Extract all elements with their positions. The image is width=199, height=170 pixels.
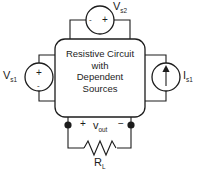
- output-voltage-label: vout: [93, 120, 107, 131]
- top-source-minus-sign: -: [89, 16, 92, 24]
- left-lower-wire: [39, 91, 55, 101]
- load-resistor-symbol: [84, 141, 116, 155]
- left-upper-wire: [39, 55, 55, 63]
- top-source-plus-sign: +: [102, 15, 108, 25]
- right-source-subscript: s1: [186, 76, 193, 83]
- block-label-line-1: Resistive Circuit: [58, 48, 142, 60]
- left-source-plus-sign: +: [36, 68, 42, 78]
- output-minus-sign: −: [118, 119, 124, 129]
- top-source-label: Vs2: [113, 1, 127, 12]
- load-resistor-label: RL: [94, 157, 106, 168]
- left-source-minus-sign: -: [37, 82, 40, 90]
- block-label: Resistive Circuit with Dependent Sources: [58, 48, 142, 94]
- block-label-line-2: with: [58, 60, 142, 72]
- right-upper-wire: [145, 55, 166, 63]
- left-source-subscript: s1: [10, 76, 17, 83]
- output-voltage-subscript: out: [99, 126, 108, 133]
- right-lower-wire: [145, 91, 166, 101]
- block-label-line-3: Dependent: [58, 71, 142, 83]
- circuit-diagram-canvas: Resistive Circuit with Dependent Sources…: [0, 0, 199, 170]
- top-left-wire: [70, 20, 86, 39]
- block-label-line-4: Sources: [58, 83, 142, 95]
- top-source-subscript: s2: [120, 7, 127, 14]
- left-source-label: Vs1: [3, 70, 17, 81]
- load-resistor-symbol: R: [94, 156, 102, 168]
- output-plus-sign: +: [80, 119, 86, 129]
- load-resistor-subscript: L: [102, 163, 106, 170]
- top-right-wire: [114, 20, 130, 39]
- right-source-label: Is1: [183, 70, 193, 81]
